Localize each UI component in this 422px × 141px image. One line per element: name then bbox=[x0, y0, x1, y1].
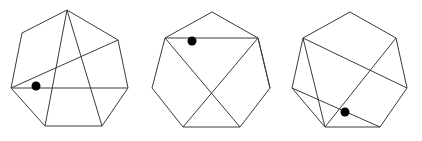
panels-group bbox=[11, 10, 407, 127]
heptagon-2 bbox=[152, 12, 270, 127]
heptagon-2-outline bbox=[152, 12, 270, 127]
heptagon-3-outline bbox=[292, 12, 407, 127]
heptagon-1-outline bbox=[11, 10, 128, 126]
figure-root bbox=[0, 0, 422, 141]
marker-dot-3 bbox=[341, 108, 350, 117]
marker-dot-1 bbox=[32, 82, 41, 91]
marker-dot-2 bbox=[188, 37, 197, 46]
heptagon-figure-svg bbox=[0, 0, 422, 141]
heptagon-3 bbox=[292, 12, 407, 127]
heptagon-1 bbox=[11, 10, 128, 126]
